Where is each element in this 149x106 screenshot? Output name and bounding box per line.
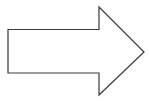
diagram-canvas [0, 0, 149, 106]
right-arrow-icon [8, 7, 144, 95]
